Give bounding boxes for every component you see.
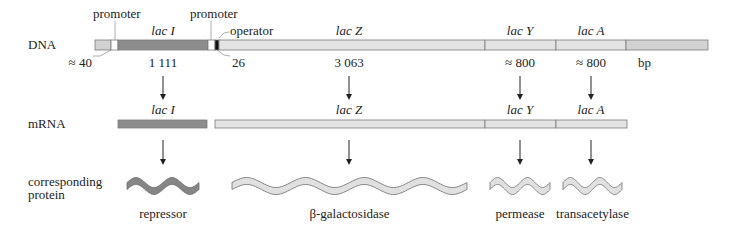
proteins: repressorβ-galactosidasepermeasetransace… — [127, 178, 629, 222]
dna-lengths: ≈ 401 111263 063≈ 800≈ 800bp — [69, 55, 651, 70]
dna-length-label: ≈ 800 — [505, 55, 535, 70]
dna-length-label: bp — [638, 55, 651, 70]
dna-segment-downstream — [626, 40, 708, 50]
arrow-head-icon — [160, 159, 166, 165]
protein-shape-transacetylase — [563, 178, 622, 195]
mrna-gene-label: lac I — [151, 102, 175, 117]
protein-label-beta-galactosidase: β-galactosidase — [309, 206, 389, 221]
mrna-segment-lacZ — [215, 120, 485, 128]
dna-length-label: 1 111 — [149, 55, 177, 70]
dna-segment-upstream — [95, 40, 111, 50]
protein-label-repressor: repressor — [139, 206, 187, 221]
translation-arrows — [160, 140, 594, 165]
arrow-head-icon — [346, 94, 352, 100]
protein-shape-permease — [490, 178, 550, 195]
mrna-segment-lacY — [485, 120, 556, 128]
dna-segment-lacA — [556, 40, 626, 50]
promoter1-label: promoter — [93, 6, 141, 21]
dna-gene-label: lac A — [578, 23, 605, 38]
row-label-mrna: mRNA — [28, 116, 66, 131]
operator-label: operator — [230, 23, 274, 38]
arrow-head-icon — [517, 159, 523, 165]
dna-segment-promoter-i — [111, 40, 118, 50]
dna-bar — [95, 40, 708, 50]
dna-segment-lacY — [485, 40, 556, 50]
lac-operon-diagram: DNA mRNA corresponding protein promoter … — [0, 0, 738, 230]
arrow-head-icon — [517, 94, 523, 100]
row-label-dna: DNA — [28, 37, 57, 52]
dna-gene-labels: lac Ilac Zlac Ylac A — [151, 23, 604, 38]
dna-length-label: 26 — [232, 55, 246, 70]
dna-length-label: ≈ 40 — [69, 55, 92, 70]
mrna-segment-lacA — [556, 120, 627, 128]
arrow-head-icon — [588, 159, 594, 165]
dna-length-label: ≈ 800 — [576, 55, 606, 70]
dna-length-label: 3 063 — [334, 55, 363, 70]
dna-segment-lacZ — [219, 40, 485, 50]
arrow-head-icon — [346, 159, 352, 165]
arrow-head-icon — [588, 94, 594, 100]
dna-gene-label: lac I — [151, 23, 175, 38]
promoter2-label: promoter — [190, 6, 238, 21]
dna-gene-label: lac Y — [507, 23, 535, 38]
mrna-segment-lacI — [118, 120, 207, 128]
protein-label-transacetylase: transacetylase — [556, 206, 629, 221]
protein-shape-beta-galactosidase — [232, 178, 467, 195]
operator-leader — [219, 32, 229, 38]
upstream-length-leader — [93, 50, 111, 56]
arrow-head-icon — [160, 94, 166, 100]
mrna-gene-labels: lac Ilac Zlac Ylac A — [151, 102, 604, 117]
dna-segment-lacI — [118, 40, 208, 50]
mrna-bar — [118, 120, 627, 128]
transcription-arrows — [160, 76, 594, 100]
protein-label-permease: permease — [495, 206, 544, 221]
protein-shape-repressor — [127, 178, 199, 195]
mrna-gene-label: lac Z — [336, 102, 363, 117]
row-label-protein-2: protein — [28, 187, 65, 202]
mrna-gene-label: lac A — [578, 102, 605, 117]
dna-segment-operator — [215, 40, 219, 50]
operator-length-leader — [217, 50, 230, 56]
dna-segment-promoter-lac — [208, 40, 215, 50]
mrna-gene-label: lac Y — [507, 102, 535, 117]
dna-gene-label: lac Z — [336, 23, 363, 38]
